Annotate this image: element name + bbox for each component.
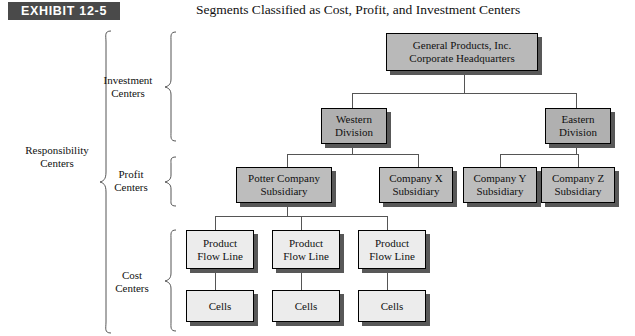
connector-to-flowline-1 [215, 216, 216, 230]
connector-to-company-z [578, 154, 579, 167]
node-corporate-headquarters[interactable]: General Products, Inc. Corporate Headqua… [386, 33, 538, 71]
node-product-flow-line-2[interactable]: Product Flow Line [272, 230, 340, 269]
connector-flowline-1-to-cells [215, 273, 216, 290]
connector-hq-stem [464, 74, 465, 93]
connector-western-bar [287, 154, 418, 155]
node-product-flow-line-3[interactable]: Product Flow Line [358, 230, 426, 269]
connector-to-company-y [500, 154, 501, 167]
node-company-y-subsidiary[interactable]: Company Y Subsidiary [463, 167, 537, 203]
exhibit-canvas: EXHIBIT 12-5 Segments Classified as Cost… [0, 0, 635, 336]
connector-divisions-bar [352, 93, 576, 94]
node-product-flow-line-1[interactable]: Product Flow Line [186, 230, 254, 269]
brace-profit-centers [164, 156, 178, 208]
exhibit-number-banner: EXHIBIT 12-5 [8, 2, 120, 20]
brace-label-investment-centers: Investment Centers [92, 74, 164, 100]
connector-to-western [352, 93, 353, 108]
connector-to-flowline-2 [301, 216, 302, 230]
connector-flowline-2-to-cells [301, 273, 302, 290]
node-eastern-division[interactable]: Eastern Division [545, 108, 611, 144]
connector-eastern-bar [500, 154, 578, 155]
connector-to-eastern [576, 93, 577, 108]
connector-flowline-3-to-cells [387, 273, 388, 290]
node-western-division[interactable]: Western Division [321, 108, 387, 144]
node-cells-3[interactable]: Cells [358, 290, 426, 322]
node-potter-company-subsidiary[interactable]: Potter Company Subsidiary [236, 167, 332, 203]
node-cells-2[interactable]: Cells [272, 290, 340, 322]
node-company-z-subsidiary[interactable]: Company Z Subsidiary [541, 167, 615, 203]
exhibit-title: Segments Classified as Cost, Profit, and… [196, 2, 520, 18]
connector-to-company-x [418, 154, 419, 167]
brace-label-cost-centers: Cost Centers [100, 269, 164, 295]
brace-investment-centers [164, 31, 178, 143]
brace-cost-centers [164, 229, 178, 333]
connector-to-flowline-3 [387, 216, 388, 230]
brace-label-profit-centers: Profit Centers [98, 168, 164, 194]
brace-label-responsibility-centers: Responsibility Centers [16, 144, 98, 170]
node-cells-1[interactable]: Cells [186, 290, 254, 322]
node-company-x-subsidiary[interactable]: Company X Subsidiary [379, 167, 453, 203]
connector-to-potter [287, 154, 288, 167]
